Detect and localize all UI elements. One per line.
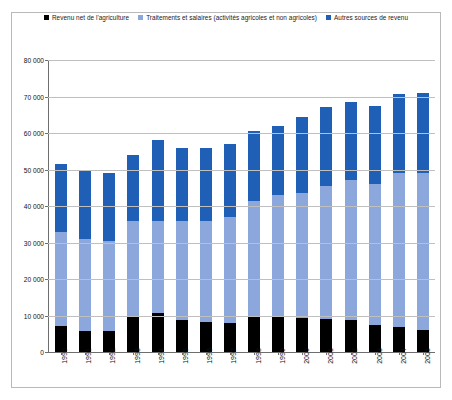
bar-segment — [224, 217, 236, 323]
stacked-bar — [176, 148, 188, 352]
x-tick-label: 2002 — [351, 348, 358, 364]
x-tick-label: 1990 — [61, 348, 68, 364]
y-tick-label: 10 000 — [24, 312, 44, 319]
stacked-bar — [417, 93, 429, 352]
x-label-slot: 1998 — [243, 353, 267, 393]
x-tick-label: 1997 — [230, 348, 237, 364]
gridline — [48, 316, 435, 317]
x-tick-label: 2003 — [376, 348, 383, 364]
x-label-slot: 1991 — [73, 353, 97, 393]
bar-segment — [345, 180, 357, 319]
y-tick-label: 80 000 — [24, 57, 44, 64]
x-label-slot: 1993 — [122, 353, 146, 393]
x-label-slot: 2002 — [339, 353, 363, 393]
bar-segment — [176, 221, 188, 321]
bar-segment — [296, 193, 308, 317]
x-tick-label: 1994 — [158, 348, 165, 364]
bar-segment — [176, 148, 188, 221]
x-axis-labels: 1990199119921993199419951996199719981999… — [49, 353, 436, 393]
y-tick-label: 30 000 — [24, 239, 44, 246]
y-tick-label: 0 — [40, 349, 44, 356]
bar-segment — [152, 140, 164, 220]
stacked-bar — [224, 144, 236, 352]
plot-area: 80 00070 00060 00050 00040 00030 00020 0… — [48, 60, 435, 352]
stacked-bar — [55, 164, 67, 352]
x-tick-label: 2005 — [424, 348, 431, 364]
chart-screenshot: Revenu net de l'agricultureTraitements e… — [0, 0, 452, 400]
gridline — [48, 243, 435, 244]
legend-swatch-icon — [138, 15, 143, 20]
y-tick-mark — [45, 97, 48, 98]
bar-segment — [248, 201, 260, 316]
stacked-bar — [345, 102, 357, 352]
x-tick-label: 1998 — [255, 348, 262, 364]
bar-segment — [103, 241, 115, 331]
y-tick-label: 40 000 — [24, 203, 44, 210]
bar-segment — [200, 148, 212, 221]
y-tick-mark — [45, 279, 48, 280]
y-tick-label: 60 000 — [24, 130, 44, 137]
x-tick-label: 1996 — [206, 348, 213, 364]
x-label-slot: 2000 — [291, 353, 315, 393]
bar-segment — [272, 317, 284, 352]
x-label-slot: 2003 — [363, 353, 387, 393]
bar-segment — [79, 170, 91, 239]
x-label-slot: 1994 — [146, 353, 170, 393]
legend-swatch-icon — [44, 15, 49, 20]
y-tick-mark — [45, 243, 48, 244]
chart-legend: Revenu net de l'agricultureTraitements e… — [0, 14, 452, 21]
legend-label: Autres sources de revenu — [334, 14, 408, 21]
legend-item: Traitements et salaires (activités agric… — [138, 14, 317, 21]
stacked-bar — [127, 155, 139, 352]
bar-segment — [55, 164, 67, 232]
x-label-slot: 2004 — [388, 353, 412, 393]
y-tick-mark — [45, 316, 48, 317]
bar-segment — [152, 221, 164, 314]
x-tick-label: 2001 — [327, 348, 334, 364]
bar-segment — [393, 173, 405, 327]
x-label-slot: 1992 — [97, 353, 121, 393]
bar-segment — [272, 126, 284, 195]
gridline — [48, 97, 435, 98]
x-label-slot: 1990 — [49, 353, 73, 393]
x-tick-label: 1991 — [85, 348, 92, 364]
gridline — [48, 170, 435, 171]
bar-segment — [152, 313, 164, 352]
x-tick-label: 2004 — [400, 348, 407, 364]
x-label-slot: 2001 — [315, 353, 339, 393]
legend-label: Revenu net de l'agriculture — [52, 14, 129, 21]
legend-item: Autres sources de revenu — [326, 14, 408, 21]
bar-segment — [417, 173, 429, 330]
gridline — [48, 206, 435, 207]
bar-segment — [79, 239, 91, 331]
x-tick-label: 2000 — [303, 348, 310, 364]
x-label-slot: 1996 — [194, 353, 218, 393]
y-tick-mark — [45, 352, 48, 353]
legend-label: Traitements et salaires (activités agric… — [146, 14, 317, 21]
y-tick-mark — [45, 60, 48, 61]
gridline — [48, 133, 435, 134]
stacked-bar — [200, 148, 212, 352]
x-tick-label: 1999 — [279, 348, 286, 364]
bar-segment — [127, 155, 139, 221]
x-tick-label: 1995 — [182, 348, 189, 364]
bar-segment — [248, 316, 260, 352]
y-tick-label: 50 000 — [24, 166, 44, 173]
x-label-slot: 1997 — [218, 353, 242, 393]
bar-segment — [127, 221, 139, 316]
legend-item: Revenu net de l'agriculture — [44, 14, 129, 21]
legend-swatch-icon — [326, 15, 331, 20]
bar-segment — [248, 131, 260, 200]
stacked-bar — [272, 126, 284, 352]
bar-segment — [296, 117, 308, 194]
x-label-slot: 1999 — [267, 353, 291, 393]
bar-segment — [320, 107, 332, 185]
bar-segment — [200, 221, 212, 322]
x-label-slot: 1995 — [170, 353, 194, 393]
y-tick-mark — [45, 133, 48, 134]
stacked-bar — [103, 173, 115, 352]
y-tick-mark — [45, 206, 48, 207]
x-label-slot: 2005 — [412, 353, 436, 393]
stacked-bar — [152, 140, 164, 352]
bar-segment — [369, 106, 381, 184]
